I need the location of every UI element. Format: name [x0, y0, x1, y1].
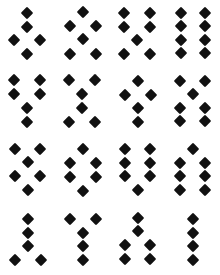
- diamond-marker: [34, 34, 47, 47]
- diamond-marker: [63, 116, 76, 129]
- diamond-marker: [90, 157, 103, 170]
- diamond-marker: [22, 240, 35, 253]
- diamond-marker: [187, 254, 200, 267]
- diamond-marker: [132, 75, 145, 88]
- diamond-marker: [145, 89, 158, 102]
- diamond-marker: [119, 170, 132, 183]
- diamond-marker: [21, 7, 34, 20]
- diamond-marker: [132, 212, 145, 225]
- diamond-marker: [119, 157, 132, 170]
- diamond-marker: [144, 48, 157, 61]
- cell-r3c2: [55, 137, 110, 206]
- diamond-marker: [144, 239, 157, 252]
- diamond-marker: [77, 254, 90, 267]
- diamond-marker: [21, 48, 34, 61]
- diamond-marker: [131, 34, 144, 47]
- diamond-marker: [64, 171, 77, 184]
- diamond-marker: [77, 6, 90, 19]
- diamond-marker: [199, 47, 212, 60]
- cell-r3c1: [0, 137, 55, 206]
- diamond-marker: [34, 143, 47, 156]
- diamond-marker: [199, 7, 212, 20]
- diamond-marker: [199, 115, 212, 128]
- diamond-marker: [90, 213, 103, 226]
- cell-r4c3: [110, 206, 165, 275]
- diamond-marker: [187, 143, 200, 156]
- diamond-marker: [175, 20, 188, 33]
- diamond-marker: [119, 89, 132, 102]
- diamond-marker: [9, 170, 22, 183]
- diamond-marker: [199, 34, 212, 47]
- diamond-marker: [174, 170, 187, 183]
- diamond-marker: [21, 116, 34, 129]
- pattern-grid: [0, 0, 220, 275]
- diamond-marker: [175, 34, 188, 47]
- cell-r1c2: [55, 0, 110, 69]
- diamond-marker: [35, 254, 48, 267]
- diamond-marker: [144, 21, 157, 34]
- diamond-marker: [187, 227, 200, 240]
- diamond-marker: [187, 240, 200, 253]
- cell-r2c3: [110, 68, 165, 137]
- diamond-marker: [199, 157, 212, 170]
- diamond-marker: [132, 225, 145, 238]
- diamond-marker: [199, 184, 212, 197]
- diamond-marker: [175, 7, 188, 20]
- diamond-marker: [144, 253, 157, 266]
- diamond-marker: [22, 184, 35, 197]
- diamond-marker: [22, 156, 35, 169]
- diamond-marker: [174, 157, 187, 170]
- diamond-marker: [90, 171, 103, 184]
- diamond-marker: [119, 239, 132, 252]
- diamond-marker: [132, 116, 145, 129]
- diamond-marker: [174, 75, 187, 88]
- diamond-marker: [76, 102, 89, 115]
- diamond-marker: [22, 227, 35, 240]
- diamond-marker: [132, 102, 145, 115]
- diamond-marker: [21, 102, 34, 115]
- diamond-marker: [64, 157, 77, 170]
- diamond-marker: [34, 88, 47, 101]
- diamond-marker: [21, 21, 34, 34]
- diamond-marker: [76, 88, 89, 101]
- diamond-marker: [22, 213, 35, 226]
- diamond-marker: [90, 48, 103, 61]
- diamond-marker: [64, 213, 77, 226]
- diamond-marker: [8, 88, 21, 101]
- cell-r2c4: [165, 68, 220, 137]
- diamond-marker: [64, 48, 77, 61]
- diamond-marker: [174, 115, 187, 128]
- diamond-marker: [89, 74, 102, 87]
- diamond-marker: [8, 74, 21, 87]
- diamond-marker: [187, 213, 200, 226]
- diamond-marker: [118, 48, 131, 61]
- diamond-marker: [8, 34, 21, 47]
- diamond-marker: [77, 185, 90, 198]
- cell-r2c1: [0, 68, 55, 137]
- diamond-marker: [144, 143, 157, 156]
- diamond-marker: [64, 20, 77, 33]
- cell-r2c2: [55, 68, 110, 137]
- cell-r3c3: [110, 137, 165, 206]
- cell-r4c4: [165, 206, 220, 275]
- diamond-marker: [175, 47, 188, 60]
- cell-r1c4: [165, 0, 220, 69]
- diamond-marker: [119, 143, 132, 156]
- diamond-marker: [199, 75, 212, 88]
- diamond-marker: [9, 254, 22, 267]
- diamond-marker: [90, 20, 103, 33]
- diamond-marker: [34, 74, 47, 87]
- diamond-marker: [63, 74, 76, 87]
- diamond-marker: [119, 253, 132, 266]
- diamond-marker: [174, 184, 187, 197]
- diamond-marker: [77, 240, 90, 253]
- diamond-marker: [9, 143, 22, 156]
- diamond-marker: [34, 170, 47, 183]
- cell-r1c1: [0, 0, 55, 69]
- diamond-marker: [118, 7, 131, 20]
- diamond-marker: [199, 170, 212, 183]
- diamond-marker: [199, 20, 212, 33]
- diamond-marker: [77, 227, 90, 240]
- diamond-marker: [144, 170, 157, 183]
- diamond-marker: [199, 102, 212, 115]
